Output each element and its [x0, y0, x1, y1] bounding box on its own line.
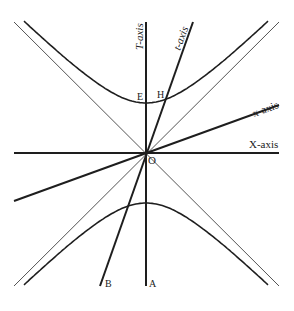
point-B-label: B — [105, 278, 112, 289]
point-H-label: H — [157, 89, 164, 100]
point-A-label: A — [149, 278, 157, 289]
T-axis-label: T-axis — [133, 23, 145, 50]
X-axis-label: X-axis — [249, 138, 278, 150]
diagram-canvas: T-axis t-axis x-axis X-axis O E H A B — [0, 0, 294, 311]
spacetime-diagram: T-axis t-axis x-axis X-axis O E H A B — [0, 0, 294, 311]
point-E-label: E — [137, 91, 143, 102]
origin-label: O — [148, 154, 156, 166]
x-axis-label: x-axis — [251, 98, 280, 118]
